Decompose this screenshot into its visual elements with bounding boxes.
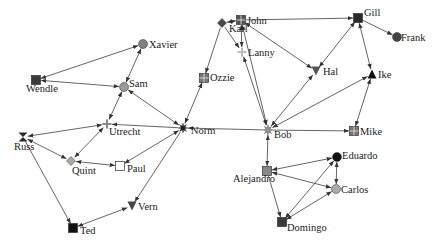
node-lanny[interactable]: Lanny [238,47,276,58]
node-label: Alejandro [233,173,275,184]
edge-utrecht-quint [75,128,104,158]
node-label: Norm [191,125,216,136]
triangle-down-node-icon [128,202,137,211]
circle-node-icon [333,153,342,162]
node-carlos[interactable]: Carlos [332,184,369,195]
edge-bob-john [242,25,267,125]
edge-norm-ozzie [185,83,202,124]
edge-russ-utrecht [28,125,102,136]
node-label: Lanny [248,47,276,58]
node-label: Hal [323,66,338,77]
node-sam[interactable]: Sam [120,78,148,92]
nodes-layer: XavierWendleSamUtrechtRussQuintPaulNormO… [14,7,426,236]
node-label: John [247,15,268,26]
node-label: Ted [80,225,96,236]
star-node-icon [263,125,273,135]
edge-sam-utrecht [109,92,122,120]
node-paul[interactable]: Paul [116,162,146,175]
node-label: Carlos [341,184,368,195]
node-label: Utrecht [109,126,141,137]
node-label: Gill [364,7,380,18]
node-label: Domingo [287,222,327,233]
node-hal[interactable]: Hal [312,66,339,77]
node-eduardo[interactable]: Eduardo [333,150,378,162]
node-label: Ozzie [210,72,235,83]
node-mike[interactable]: Mike [350,126,383,137]
square-node-icon [278,218,287,227]
node-label: Mike [360,126,383,137]
edge-wendle-xavier [41,46,139,79]
edge-bob-ike [272,76,367,127]
edge-ike-mike [356,79,371,126]
edge-ted-vern [78,208,128,227]
edge-bob-hal [271,75,313,126]
square-node-icon [69,224,78,233]
node-alejandro[interactable]: Alejandro [233,167,275,185]
edge-gill-hal [319,22,355,67]
node-label: Sam [129,78,148,89]
node-domingo[interactable]: Domingo [278,218,327,234]
node-bob[interactable]: Bob [263,125,291,140]
edges-layer [25,18,392,226]
node-xavier[interactable]: Xavier [139,39,179,50]
node-gill[interactable]: Gill [354,7,381,23]
node-label: Frank [401,32,426,43]
edge-bob-lanny [244,57,267,126]
edge-russ-ted [25,141,70,223]
edge-gill-frank [363,20,393,35]
edge-bob-alejandro [267,135,268,166]
node-label: Vern [138,201,159,212]
node-frank[interactable]: Frank [393,32,427,43]
node-utrecht[interactable]: Utrecht [103,120,141,138]
node-label: Paul [127,163,146,174]
edge-eduardo-carlos [336,162,337,184]
node-ike[interactable]: Ike [368,69,392,80]
node-ted[interactable]: Ted [69,224,97,237]
square-grid-node-icon [200,74,209,83]
node-norm[interactable]: Norm [178,123,215,136]
node-label: Ike [378,69,392,80]
node-label: Wendle [26,83,58,94]
diamond-node-icon [218,19,227,28]
square-grid-node-icon [350,127,359,136]
node-ozzie[interactable]: Ozzie [200,72,235,83]
triangle-up-node-icon [368,70,377,79]
edge-john-karl [227,21,236,22]
node-john[interactable]: John [237,15,268,26]
triangle-down-node-icon [312,67,321,76]
circle-node-icon [332,185,341,194]
cross-node-icon [238,48,247,57]
square-grid-node-icon [237,16,246,25]
edge-gill-ike [359,23,371,69]
square-node-icon [354,14,363,23]
node-quint[interactable]: Quint [67,157,97,177]
node-label: Bob [274,129,292,140]
circle-node-icon [120,83,129,92]
node-label: Eduardo [342,150,378,161]
node-vern[interactable]: Vern [128,201,159,212]
edge-domingo-carlos [286,192,331,220]
edge-norm-sam [128,90,179,125]
square-open-node-icon [116,162,125,171]
edge-alejandro-eduardo [272,158,332,170]
node-label: Russ [14,141,34,152]
edge-john-hal [245,23,312,68]
network-diagram: XavierWendleSamUtrechtRussQuintPaulNormO… [0,0,438,251]
circle-node-icon [139,40,148,49]
edge-karl-ozzie [206,28,221,73]
node-label: Xavier [149,39,178,50]
edge-domingo-eduardo [285,161,334,218]
star-node-icon [178,123,188,133]
node-label: Quint [72,165,96,176]
